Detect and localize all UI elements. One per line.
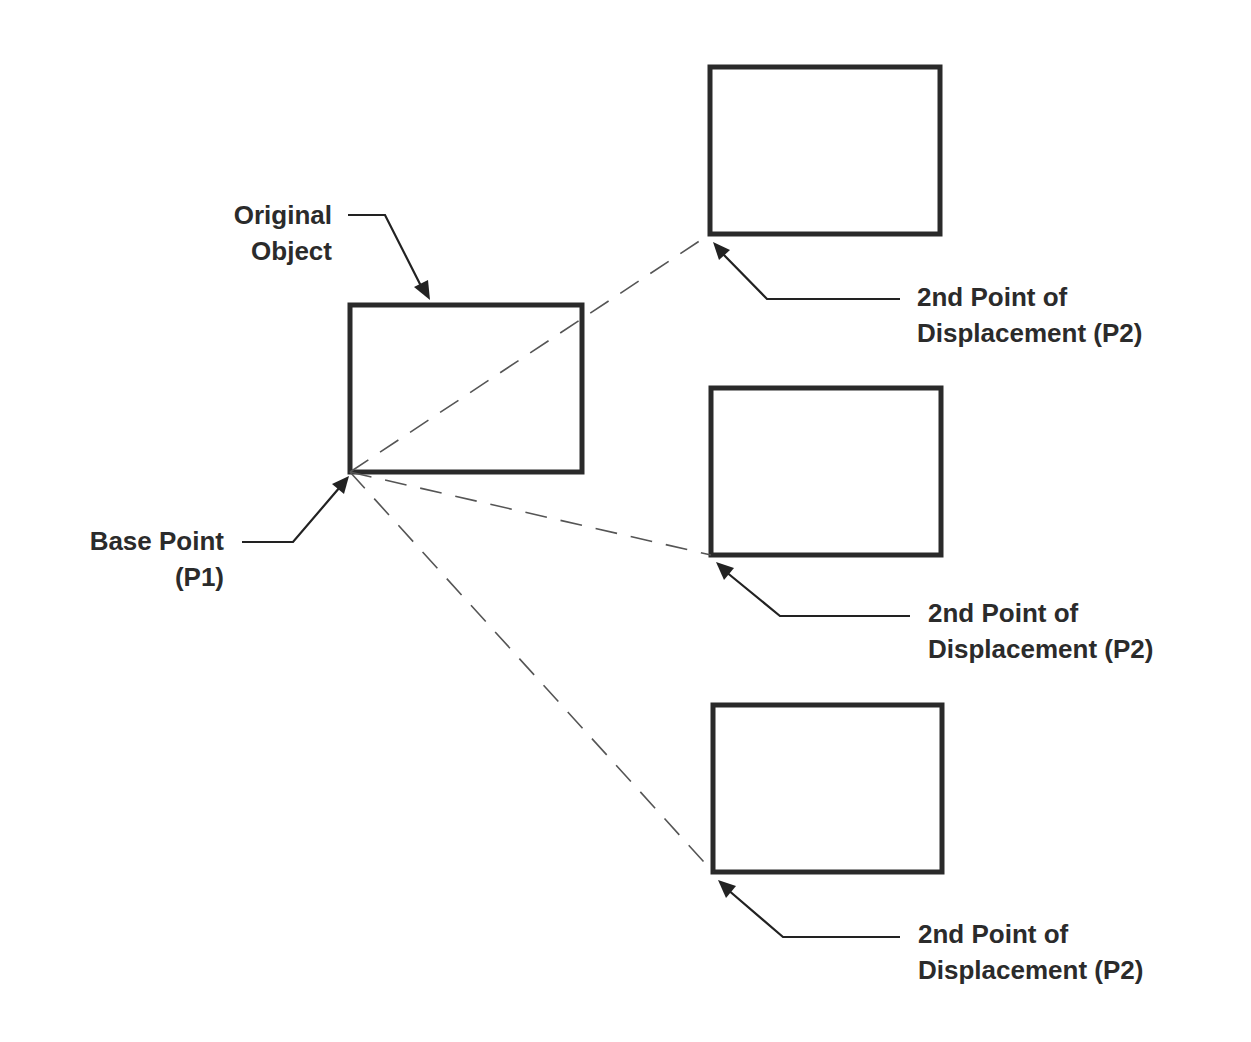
displacement-line-middle [350, 472, 711, 555]
base-point-label-line1: Base Point [40, 523, 224, 559]
p2-bottom-label-line2: Displacement (P2) [918, 952, 1143, 988]
displacement-line-bottom [350, 472, 713, 872]
p2-middle-label-line1: 2nd Point of [928, 595, 1153, 631]
original-object-label: Original Object [180, 197, 332, 269]
base-point-label: Base Point (P1) [40, 523, 224, 595]
p2-bottom-label-line1: 2nd Point of [918, 916, 1143, 952]
original-object-leader-arrow-icon [348, 215, 430, 300]
p2-middle-leader-arrow-icon [716, 562, 910, 616]
p2-top-label-line1: 2nd Point of [917, 279, 1142, 315]
base-point-label-line2: (P1) [40, 559, 224, 595]
p2-top-label-line2: Displacement (P2) [917, 315, 1142, 351]
p2-middle-label: 2nd Point of Displacement (P2) [928, 595, 1153, 667]
p2-middle-label-line2: Displacement (P2) [928, 631, 1153, 667]
original-object-label-line2: Object [180, 233, 332, 269]
p2-top-leader-arrow-icon [713, 242, 900, 299]
p2-bottom-leader-arrow-icon [718, 880, 900, 937]
copy-top-rectangle [710, 67, 940, 234]
copy-middle-rectangle [711, 388, 941, 555]
p2-bottom-label: 2nd Point of Displacement (P2) [918, 916, 1143, 988]
p2-top-label: 2nd Point of Displacement (P2) [917, 279, 1142, 351]
displacement-diagram [0, 0, 1251, 1042]
displacement-line-top [350, 234, 710, 472]
original-object-label-line1: Original [180, 197, 332, 233]
copy-bottom-rectangle [713, 705, 942, 872]
original-object-rectangle [350, 305, 582, 472]
base-point-leader-arrow-icon [242, 476, 349, 542]
